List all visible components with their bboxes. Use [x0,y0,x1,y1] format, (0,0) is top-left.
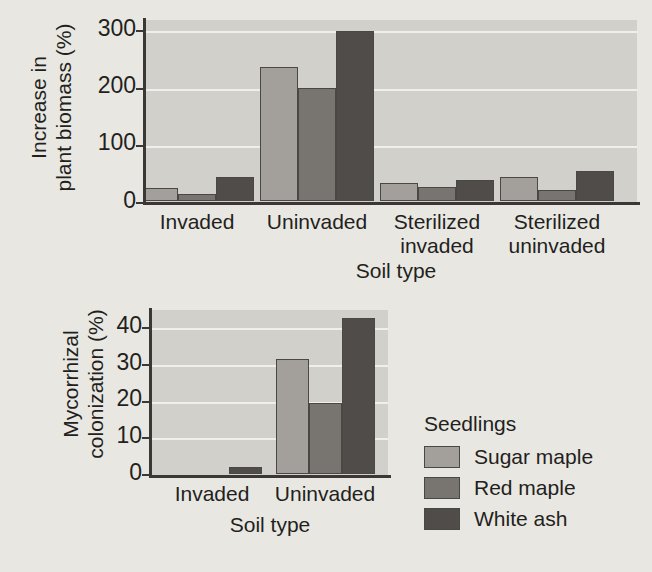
legend-swatch [424,508,460,530]
x-axis-category-label: Sterilized uninvaded [487,210,627,258]
x-axis-line-mycorrhizal [149,475,391,478]
x-axis-title-biomass: Soil type [186,259,606,283]
bar [576,171,614,201]
bar [309,403,342,475]
y-axis-tick [142,364,149,366]
y-axis-tick [142,327,149,329]
gridline [146,31,637,33]
y-axis-tick-label: 200 [26,74,136,97]
bar [229,467,262,474]
y-axis-tick-label: 0 [32,461,142,484]
x-axis-category-label: Sterilized invaded [367,210,507,258]
y-axis-title-biomass: Increase in plant biomass (%) [26,15,76,200]
bar [538,190,576,201]
gridline [146,89,637,91]
legend-item-label: Sugar maple [474,445,593,469]
y-axis-tick [136,30,143,32]
figure-bar-charts: Increase in plant biomass (%) Soil type … [0,0,652,572]
bar [216,177,254,201]
y-axis-tick-label: 300 [26,17,136,40]
legend-title: Seedlings [424,412,639,436]
legend-swatch [424,446,460,468]
bar [380,183,418,201]
bar [336,31,374,201]
bar [178,194,216,201]
legend-item: Sugar maple [424,445,639,469]
gridline [146,146,637,148]
bar [276,359,309,475]
y-axis-tick [142,437,149,439]
y-axis-tick [136,88,143,90]
x-axis-line-biomass [143,202,640,205]
plot-area-biomass [146,20,637,203]
bar [418,187,456,201]
plot-area-mycorrhizal [152,310,388,475]
legend-entries: Sugar mapleRed mapleWhite ash [424,445,639,531]
y-axis-tick [142,401,149,403]
x-axis-category-label: Invaded [127,210,267,234]
bar [500,177,538,201]
bar [342,318,375,474]
y-axis-tick-label: 0 [26,189,136,212]
y-axis-tick-label: 40 [32,314,142,337]
legend-swatch [424,477,460,499]
y-axis-tick-label: 30 [32,351,142,374]
bar [146,188,178,201]
bar [260,67,298,201]
bar [298,88,336,201]
y-axis-tick-label: 20 [32,387,142,410]
y-axis-tick [136,202,143,204]
y-axis-line-biomass [143,18,146,205]
legend-seedlings: Seedlings Sugar mapleRed mapleWhite ash [424,412,639,538]
legend-item-label: Red maple [474,476,576,500]
y-axis-tick [136,145,143,147]
y-axis-tick [142,474,149,476]
bar [456,180,494,201]
legend-item: White ash [424,507,639,531]
y-axis-tick-label: 10 [32,424,142,447]
x-axis-category-label: Uninvaded [250,482,400,506]
y-axis-line-mycorrhizal [149,308,152,477]
y-axis-tick-label: 100 [26,131,136,154]
x-axis-category-label: Uninvaded [247,210,387,234]
x-axis-title-mycorrhizal: Soil type [150,513,390,537]
legend-item: Red maple [424,476,639,500]
chart-increase-in-plant-biomass: Increase in plant biomass (%) Soil type … [0,0,652,292]
legend-item-label: White ash [474,507,567,531]
